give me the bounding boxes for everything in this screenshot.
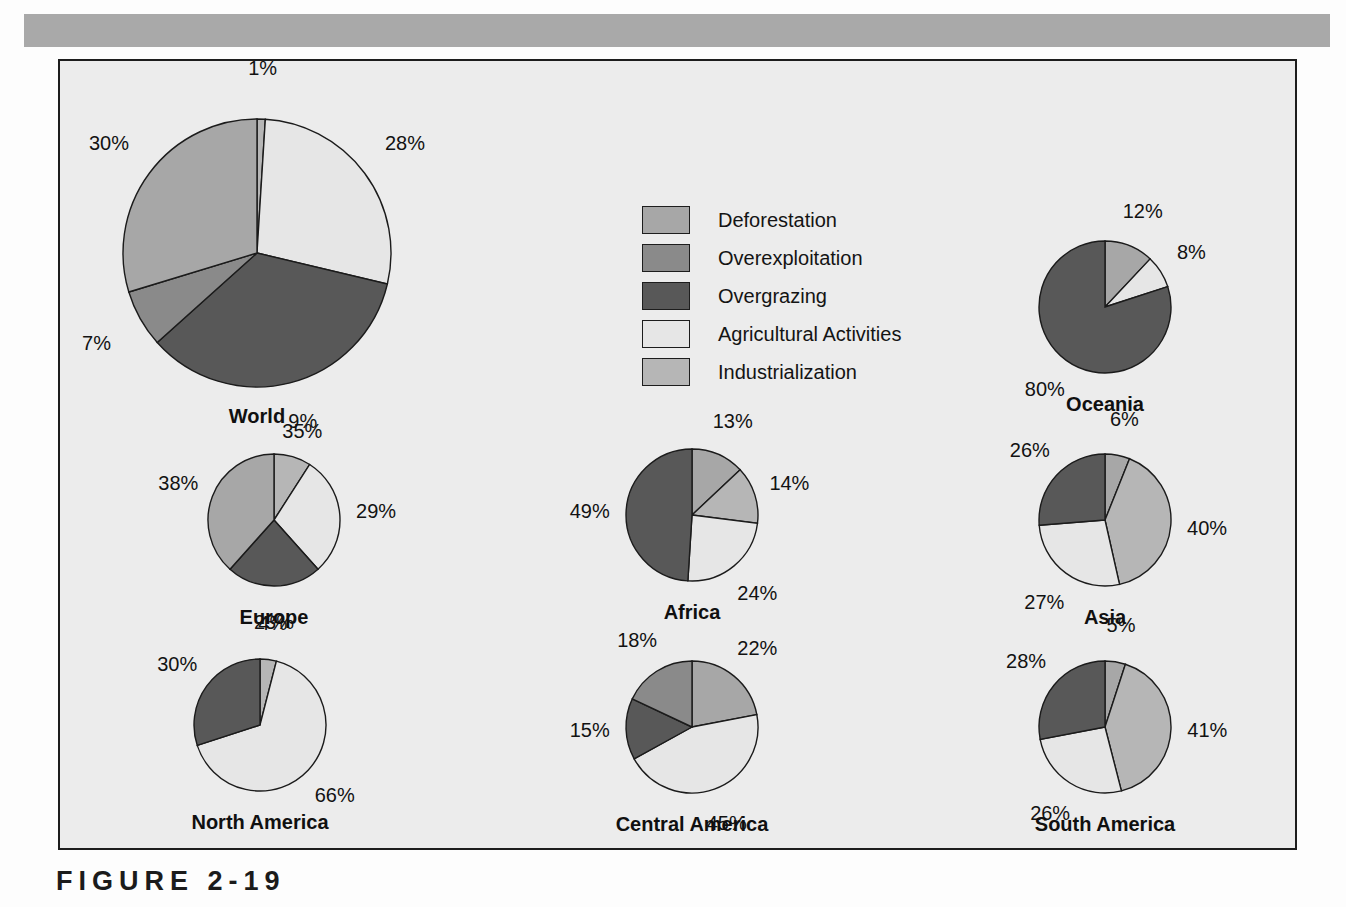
pie-label-north-america-overgrazing: 30%	[157, 653, 197, 676]
pie-label-europe-industrialization: 9%	[288, 410, 317, 433]
pie-label-south-america-deforestation: 5%	[1107, 614, 1136, 637]
pie-chart-north-america: 4%66%30%North America	[131, 596, 389, 854]
pie-label-north-america-agricultural-activities: 66%	[315, 784, 355, 807]
pie-label-central-america-deforestation: 22%	[737, 637, 777, 660]
pie-title-central-america: Central America	[563, 813, 821, 836]
legend-swatch-overexploitation	[642, 244, 690, 272]
legend-item: Agricultural Activities	[642, 315, 972, 353]
legend-swatch-overgrazing	[642, 282, 690, 310]
pie-slice-asia-agricultural-activities	[1039, 520, 1119, 586]
pie-label-asia-industrialization: 40%	[1187, 517, 1227, 540]
legend-item: Deforestation	[642, 201, 972, 239]
pie-label-oceania-agricultural-activities: 8%	[1177, 241, 1206, 264]
legend-label-deforestation: Deforestation	[718, 209, 837, 232]
figure-page: Deforestation Overexploitation Overgrazi…	[0, 0, 1346, 907]
legend-label-industrialization: Industrialization	[718, 361, 857, 384]
pie-label-world-overexploitation: 7%	[82, 332, 111, 355]
figure-caption: FIGURE 2-19	[56, 866, 286, 897]
pie-chart-south-america: 5%41%26%28%South America	[976, 598, 1234, 856]
figure-panel: Deforestation Overexploitation Overgrazi…	[58, 59, 1297, 850]
legend-swatch-agricultural-activities	[642, 320, 690, 348]
pie-label-world-industrialization: 1%	[248, 57, 277, 80]
pie-label-africa-overgrazing: 49%	[570, 500, 610, 523]
pie-label-central-america-overexploitation: 18%	[617, 629, 657, 652]
pie-label-asia-deforestation: 6%	[1110, 408, 1139, 431]
pie-title-north-america: North America	[131, 811, 389, 834]
legend-label-agricultural-activities: Agricultural Activities	[718, 323, 901, 346]
pie-slice-asia-overgrazing	[1039, 454, 1105, 525]
pie-slice-africa-agricultural-activities	[688, 515, 758, 581]
pie-label-world-deforestation: 30%	[89, 132, 129, 155]
pie-label-africa-deforestation: 13%	[713, 410, 753, 433]
pie-slice-africa-overgrazing	[626, 449, 692, 581]
pie-label-north-america-industrialization: 4%	[258, 612, 287, 635]
chart-legend: Deforestation Overexploitation Overgrazi…	[642, 201, 972, 391]
legend-label-overexploitation: Overexploitation	[718, 247, 863, 270]
pie-title-south-america: South America	[976, 813, 1234, 836]
legend-item: Overgrazing	[642, 277, 972, 315]
legend-swatch-deforestation	[642, 206, 690, 234]
pie-label-europe-deforestation: 38%	[158, 472, 198, 495]
pie-label-south-america-industrialization: 41%	[1187, 719, 1227, 742]
pie-label-asia-overgrazing: 26%	[1010, 439, 1050, 462]
pie-label-world-agricultural-activities: 28%	[385, 132, 425, 155]
pie-label-oceania-deforestation: 12%	[1123, 200, 1163, 223]
pie-slice-south-america-overgrazing	[1039, 661, 1105, 739]
legend-item: Overexploitation	[642, 239, 972, 277]
legend-label-overgrazing: Overgrazing	[718, 285, 827, 308]
pie-label-africa-industrialization: 14%	[769, 472, 809, 495]
pie-label-central-america-overgrazing: 15%	[570, 719, 610, 742]
pie-label-europe-agricultural-activities: 29%	[356, 500, 396, 523]
legend-swatch-industrialization	[642, 358, 690, 386]
pie-label-south-america-overgrazing: 28%	[1006, 650, 1046, 673]
pie-chart-central-america: 22%45%15%18%Central America	[563, 598, 821, 856]
